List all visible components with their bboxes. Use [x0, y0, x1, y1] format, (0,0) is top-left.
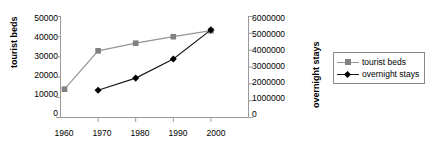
data-point-marker	[133, 40, 139, 46]
series-tourist-beds	[62, 28, 214, 92]
data-point-marker	[62, 86, 68, 92]
y-axis-left-tickmarks	[56, 17, 61, 118]
data-point-marker	[171, 34, 177, 40]
legend-key-diamond-icon	[337, 69, 359, 80]
series-line-tourist-beds	[65, 31, 211, 89]
x-axis-tickmarks	[98, 118, 211, 123]
data-point-marker	[95, 87, 102, 94]
data-point-markers-overnight	[95, 26, 215, 93]
legend-label: overnight stays	[359, 69, 419, 79]
legend-key-square-icon	[337, 57, 359, 68]
legend-label: tourist beds	[359, 57, 406, 67]
legend-item-overnight-stays[interactable]: overnight stays	[337, 68, 419, 80]
data-point-marker	[95, 48, 101, 54]
legend-item-tourist-beds[interactable]: tourist beds	[337, 56, 419, 68]
data-point-marker	[132, 75, 139, 82]
series-line-overnight-stays	[98, 30, 211, 90]
chart-canvas: tourist beds overnight stays 50000 40000…	[0, 0, 430, 153]
series-overnight-stays	[95, 26, 215, 93]
chart-legend: tourist beds overnight stays	[333, 52, 425, 84]
y-axis-right-tickmarks	[249, 17, 254, 118]
